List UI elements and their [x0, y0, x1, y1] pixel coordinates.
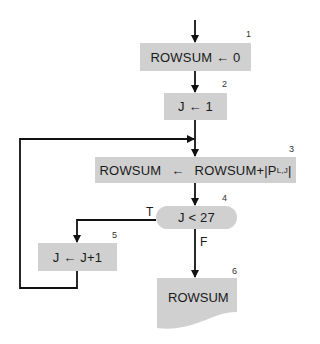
node-3-number: 3: [289, 144, 294, 154]
node-2-process: J ← 1: [164, 93, 227, 120]
node-3-subscript: L,J: [277, 166, 288, 175]
node-2-number: 2: [222, 79, 227, 89]
node-3-process: ROWSUM ← ROWSUM+|PL,J|: [95, 157, 296, 183]
node-4-decision: J < 27: [156, 206, 237, 229]
node-3-text-end: |: [288, 163, 292, 178]
node-5-process: J ← J+1: [38, 243, 117, 271]
node-3-text-left: ROWSUM: [99, 163, 161, 178]
true-branch-label: T: [146, 205, 153, 219]
node-1-text: ROWSUM ← 0: [150, 50, 240, 65]
node-4-text: J < 27: [178, 210, 215, 225]
node-1-process: ROWSUM ← 0: [140, 43, 251, 71]
node-4-number: 4: [222, 193, 227, 203]
node-5-number: 5: [112, 230, 117, 240]
node-5-text: J ← J+1: [53, 250, 102, 265]
node-3-text-right: ROWSUM+|P: [195, 163, 277, 178]
node-6-number: 6: [232, 266, 237, 276]
node-1-number: 1: [246, 29, 251, 39]
node-3-assign-arrow: ←: [171, 163, 184, 178]
false-branch-label: F: [200, 235, 207, 249]
node-6-text: ROWSUM: [168, 290, 229, 305]
node-2-text: J ← 1: [178, 99, 213, 114]
